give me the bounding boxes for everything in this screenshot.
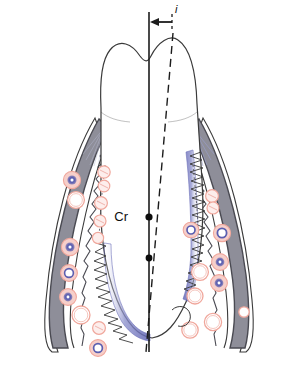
rotation-center-dot — [146, 255, 153, 262]
tooth-periodontium-diagram: Cr i — [0, 0, 298, 365]
center-of-resistance-label: Cr — [114, 209, 128, 224]
displacement-arrow — [150, 14, 172, 30]
arrow-head-left — [150, 18, 159, 26]
center-of-resistance-dot — [145, 213, 152, 220]
diagram-canvas: Cr i — [0, 0, 298, 365]
displacement-measure-label: i — [175, 3, 178, 15]
